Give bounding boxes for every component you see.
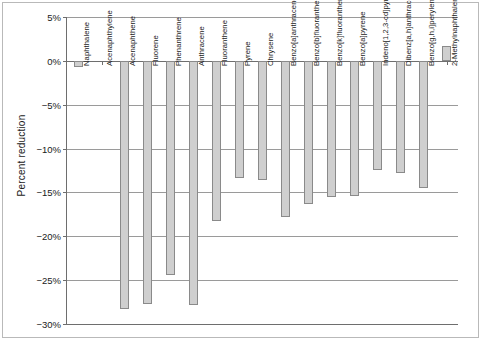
bar[interactable] [419, 61, 428, 188]
y-tick-label: 0% [47, 55, 61, 66]
y-tick-label: −25% [36, 275, 61, 286]
y-tick-label: −10% [36, 143, 61, 154]
y-axis-title: Percent reduction [16, 91, 27, 221]
bar[interactable] [258, 61, 267, 180]
y-tick-label: −15% [36, 187, 61, 198]
category-label: Naphthalene [82, 22, 91, 66]
bar[interactable] [143, 61, 152, 304]
category-label: Pyrene [243, 41, 252, 66]
bar[interactable] [212, 61, 221, 222]
x-tick-mark [447, 61, 448, 65]
x-tick-mark [102, 61, 103, 65]
bar[interactable] [396, 61, 405, 173]
category-label: Acenaphthene [128, 16, 137, 66]
bar[interactable] [235, 61, 244, 179]
bar[interactable] [373, 61, 382, 171]
bar[interactable] [327, 61, 336, 197]
category-label: Fluoranthene [220, 20, 229, 66]
bar[interactable] [350, 61, 359, 196]
category-label: Phenanthrene [174, 17, 183, 66]
bar[interactable] [281, 61, 290, 217]
category-label: Acenaphthylene [105, 10, 114, 66]
category-label: Fluorene [151, 35, 160, 66]
bar-series [67, 17, 458, 324]
category-label: Benzo[a]anthracene [289, 0, 298, 66]
bar[interactable] [304, 61, 313, 204]
category-label: Benzo[k]fluoranthene [335, 0, 344, 66]
plot-area: 5%0%−5%−10%−15%−20%−25%−30% NaphthaleneA… [66, 17, 458, 325]
category-label: Dibenz[a,h]anthracene [404, 0, 413, 66]
y-tick-label: −5% [42, 99, 61, 110]
bar[interactable] [166, 61, 175, 275]
y-tick-mark [63, 324, 67, 325]
category-label: 2-Methylnaphthalene [450, 0, 459, 66]
category-label: Benzo[g,h,i]perylene [427, 0, 436, 66]
category-label: Benzo[b]fluoranthene [312, 0, 321, 66]
category-label: Chrysene [266, 33, 275, 66]
category-label: Anthracene [197, 26, 206, 66]
figure: Percent reduction 5%0%−5%−10%−15%−20%−25… [0, 0, 481, 340]
y-tick-label: 5% [47, 12, 61, 23]
bar[interactable] [189, 61, 198, 305]
bar[interactable] [120, 61, 129, 309]
y-tick-label: −20% [36, 231, 61, 242]
y-tick-label: −30% [36, 319, 61, 330]
category-label: Indeno[1,2,3-cd]pyrene [381, 0, 390, 66]
category-label: Benzo[a]pyrene [358, 11, 367, 66]
